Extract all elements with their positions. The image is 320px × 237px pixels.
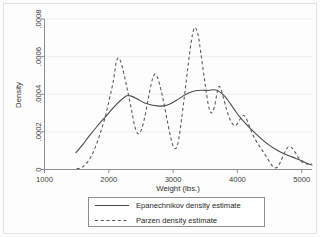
x-tick-label: 5000 bbox=[293, 175, 310, 184]
series-line-parzen bbox=[77, 27, 312, 168]
gridlines-group bbox=[45, 19, 313, 132]
x-tick-label: 4000 bbox=[229, 175, 246, 184]
legend-label-epanechnikov: Epanechnikov density estimate bbox=[136, 201, 241, 210]
y-axis-title: Density bbox=[14, 82, 23, 108]
series-line-epanechnikov bbox=[76, 90, 312, 165]
x-tick-label: 2000 bbox=[100, 175, 117, 184]
density-plot-figure: 10002000300040005000 0.0002.0004.0006.00… bbox=[0, 0, 320, 237]
legend-key-dashed-line-icon bbox=[94, 216, 130, 225]
x-tick-label: 1000 bbox=[36, 175, 53, 184]
x-tick-label: 3000 bbox=[165, 175, 182, 184]
y-tick-label: .0002 bbox=[34, 122, 43, 141]
y-tick-label: .0008 bbox=[34, 9, 43, 28]
tickmarks-group bbox=[41, 19, 302, 173]
x-axis-title: Weight (lbs.) bbox=[156, 184, 200, 193]
data-series-group bbox=[76, 27, 312, 168]
legend-key-solid-line-icon bbox=[94, 201, 130, 210]
legend: Epanechnikov density estimate Parzen den… bbox=[88, 197, 265, 227]
y-tick-label: .0004 bbox=[34, 85, 43, 104]
y-tick-label: .0006 bbox=[34, 47, 43, 66]
x-tick-labels: 10002000300040005000 bbox=[36, 175, 310, 184]
y-tick-labels: 0.0002.0004.0006.0008 bbox=[34, 9, 43, 171]
y-tick-label: 0 bbox=[34, 167, 43, 171]
legend-item-parzen: Parzen density estimate bbox=[89, 213, 264, 228]
legend-item-epanechnikov: Epanechnikov density estimate bbox=[89, 198, 264, 213]
legend-label-parzen: Parzen density estimate bbox=[136, 216, 217, 225]
